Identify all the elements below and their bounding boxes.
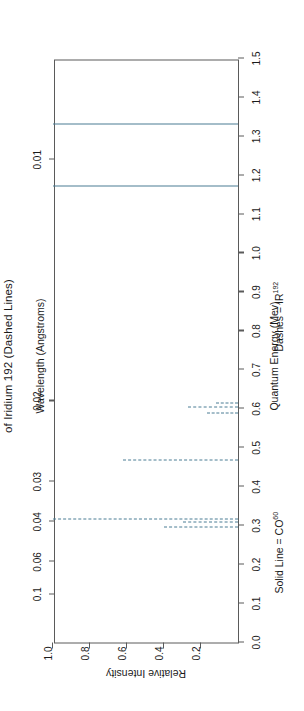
x-axis-tick-label: 0.1: [251, 596, 262, 610]
x-axis-tick: [238, 213, 244, 214]
legend-solid-line: Solid Line = CO60: [272, 511, 285, 593]
spectral-line: [216, 402, 238, 403]
y-axis-tick-label: 0.4: [154, 646, 165, 670]
x-axis-tick-label: 0.9: [251, 285, 262, 299]
x-axis-tick-label: 1.1: [251, 207, 262, 221]
top-axis-title: Wavelength (Angstroms): [34, 0, 46, 711]
x-axis-tick: [238, 446, 244, 447]
x-axis-tick-label: 1.4: [251, 90, 262, 104]
top-axis-tick: [49, 593, 55, 594]
x-axis-tick-label: 0.6: [251, 401, 262, 415]
spectral-line: [123, 459, 238, 460]
y-axis-tick-label: 0.6: [117, 646, 128, 670]
x-axis-tick-label: 0.7: [251, 363, 262, 377]
x-axis-tick-label: 1.0: [251, 246, 262, 260]
top-axis-tick-label: 0.1: [32, 587, 43, 601]
x-axis-tick: [238, 251, 244, 252]
x-axis-title: Quantum Energy (Mev): [268, 0, 280, 711]
top-axis-tick-label: 0.06: [32, 552, 43, 571]
y-axis-tick-label: 1.0: [43, 646, 54, 670]
top-axis-tick: [49, 399, 55, 400]
x-axis-tick: [238, 368, 244, 369]
x-axis-tick: [238, 485, 244, 486]
top-axis-tick: [49, 480, 55, 481]
plot-area: 0.00.10.20.30.40.50.60.70.80.91.01.11.21…: [54, 59, 239, 643]
spectrum-figure: of Iridium 192 (Dashed Lines) Wavelength…: [0, 0, 304, 711]
spectral-line: [188, 406, 238, 407]
x-axis-tick-label: 0.0: [251, 635, 262, 649]
top-axis-tick-label: 0.01: [32, 150, 43, 169]
top-axis-tick-label: 0.04: [32, 512, 43, 531]
x-axis-tick: [238, 174, 244, 175]
x-axis-tick: [238, 290, 244, 291]
legend-dashed-label: Dashes = IR: [273, 293, 285, 351]
top-axis-tick-label: 0.02: [32, 391, 43, 410]
y-axis-tick-label: 0.8: [80, 646, 91, 670]
y-axis-tick-label: 0.2: [191, 646, 202, 670]
x-axis-tick: [238, 407, 244, 408]
x-axis-tick: [238, 524, 244, 525]
x-axis-tick-label: 1.2: [251, 168, 262, 182]
spectral-line: [207, 412, 238, 413]
x-axis-tick: [238, 602, 244, 603]
spectral-line: [183, 521, 239, 522]
figure-title: of Iridium 192 (Dashed Lines): [2, 0, 14, 711]
top-axis-tick: [49, 158, 55, 159]
legend-solid-superscript: 60: [272, 511, 279, 519]
legend-solid-label: Solid Line = CO: [273, 519, 285, 593]
x-axis-tick-label: 0.4: [251, 479, 262, 493]
x-axis-tick: [238, 96, 244, 97]
x-axis-tick: [238, 135, 244, 136]
x-axis-tick-label: 0.3: [251, 518, 262, 532]
x-axis-tick: [238, 57, 244, 58]
x-axis-tick: [238, 641, 244, 642]
spectral-line: [53, 518, 238, 519]
spectral-line: [53, 185, 238, 186]
rotated-figure-wrapper: of Iridium 192 (Dashed Lines) Wavelength…: [0, 0, 304, 711]
x-axis-tick-label: 1.3: [251, 129, 262, 143]
top-axis-tick-label: 0.03: [32, 471, 43, 490]
legend-dashed-line: Dashes = IR192: [272, 281, 285, 351]
x-axis-tick-label: 0.8: [251, 324, 262, 338]
x-axis-tick-label: 1.5: [251, 51, 262, 65]
x-axis-tick: [238, 563, 244, 564]
top-axis-tick: [49, 520, 55, 521]
x-axis-tick-label: 0.2: [251, 557, 262, 571]
legend-dashed-superscript: 192: [272, 281, 279, 293]
top-axis-tick: [49, 560, 55, 561]
spectral-line: [164, 526, 238, 527]
x-axis-tick-label: 0.5: [251, 440, 262, 454]
x-axis-tick: [238, 329, 244, 330]
spectral-line: [53, 123, 238, 124]
